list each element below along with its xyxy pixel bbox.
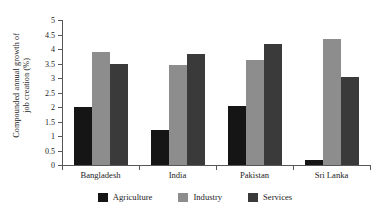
bar-group-bars <box>293 20 370 165</box>
y-axis-tick-label: 2.5 <box>45 88 55 97</box>
bar-group: Pakistan <box>216 20 293 165</box>
bar-group: Sri Lanka <box>293 20 370 165</box>
y-axis-tick-label: 2 <box>51 103 55 112</box>
bar-agriculture-india <box>151 130 169 165</box>
plot-area: 00.511.522.533.544.55 BangladeshIndiaPak… <box>62 20 370 166</box>
bar-group: Bangladesh <box>62 20 139 165</box>
bar-group-bars <box>139 20 216 165</box>
y-axis-title: Compounded annual growth of job creation… <box>2 0 42 170</box>
bar-services-sri-lanka <box>341 77 359 165</box>
chart-legend: AgricultureIndustryServices <box>0 192 390 202</box>
x-axis-category-label: India <box>139 170 216 180</box>
bar-groups: BangladeshIndiaPakistanSri Lanka <box>62 20 370 165</box>
y-axis-tick-label: 1 <box>51 132 55 141</box>
legend-swatch-industry <box>178 193 188 202</box>
legend-label-agriculture: Agriculture <box>113 192 153 202</box>
legend-swatch-agriculture <box>98 193 108 202</box>
bar-services-bangladesh <box>110 64 128 165</box>
bar-agriculture-pakistan <box>228 106 246 165</box>
bar-agriculture-sri-lanka <box>305 160 323 165</box>
legend-item-industry: Industry <box>178 192 222 202</box>
y-axis-tick-label: 3 <box>51 74 55 83</box>
y-axis-title-line-2: job creation (%) <box>22 33 32 138</box>
legend-label-industry: Industry <box>193 192 222 202</box>
bar-industry-pakistan <box>246 60 264 165</box>
y-axis-tick-label: 1.5 <box>45 117 55 126</box>
legend-label-services: Services <box>263 192 292 202</box>
bar-group-bars <box>62 20 139 165</box>
x-axis-tick-mark <box>370 165 371 170</box>
bar-agriculture-bangladesh <box>74 107 92 165</box>
bar-group-bars <box>216 20 293 165</box>
bar-services-pakistan <box>264 44 282 166</box>
x-axis-category-label: Sri Lanka <box>293 170 370 180</box>
x-axis-category-label: Bangladesh <box>62 170 139 180</box>
bar-services-india <box>187 54 205 165</box>
y-axis-tick-label: 4 <box>51 45 55 54</box>
bar-group: India <box>139 20 216 165</box>
y-axis-title-line-1: Compounded annual growth of <box>12 33 21 138</box>
y-axis-tick-label: 0.5 <box>45 146 55 155</box>
bar-industry-bangladesh <box>92 52 110 165</box>
y-axis-tick-label: 4.5 <box>45 30 55 39</box>
legend-item-services: Services <box>248 192 292 202</box>
y-axis-tick-label: 3.5 <box>45 59 55 68</box>
y-axis-tick-label: 0 <box>51 161 55 170</box>
chart-figure: Compounded annual growth of job creation… <box>0 0 390 220</box>
x-axis-category-label: Pakistan <box>216 170 293 180</box>
legend-swatch-services <box>248 193 258 202</box>
bar-industry-sri-lanka <box>323 39 341 165</box>
bar-industry-india <box>169 65 187 165</box>
legend-item-agriculture: Agriculture <box>98 192 153 202</box>
y-axis-tick-label: 5 <box>51 16 55 25</box>
